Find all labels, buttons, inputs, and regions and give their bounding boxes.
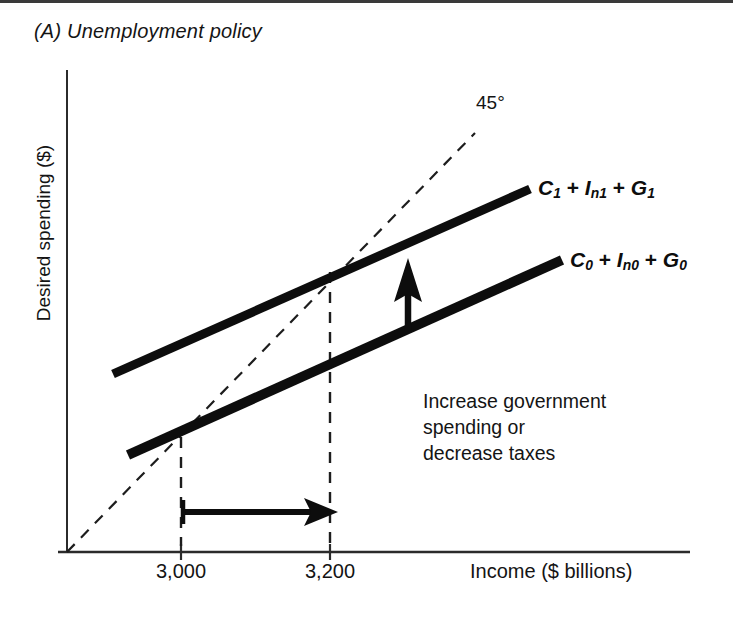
income-increase-arrow: [182, 498, 338, 526]
x-axis-tick-label-3000: 3,000: [131, 560, 231, 583]
shift-up-arrow: [394, 258, 422, 330]
series-label-c1-term: C1: [538, 176, 561, 199]
series-label-plus-0a: +: [599, 248, 611, 271]
economics-figure-panel-a: (A) Unemployment policy Desired spending…: [0, 0, 733, 621]
chart-plot-area: [0, 0, 733, 621]
forty-five-degree-line: [67, 133, 475, 552]
series-label-c0-in0-g0: C0 + In0 + G0: [570, 248, 687, 273]
series-line-c1-in1-g1: [113, 189, 530, 374]
series-label-g0-term: G0: [663, 248, 687, 271]
x-axis-tick-label-3200: 3,200: [280, 560, 380, 583]
forty-five-degree-label: 45°: [476, 92, 505, 114]
series-label-plus-0b: +: [645, 248, 657, 271]
series-label-g1-term: G1: [631, 176, 655, 199]
series-label-c1-in1-g1: C1 + In1 + G1: [538, 176, 655, 201]
series-label-plus-1a: +: [567, 176, 579, 199]
series-label-in0-term: In0: [617, 248, 639, 271]
series-label-in1-term: In1: [585, 176, 607, 199]
series-label-plus-1b: +: [613, 176, 625, 199]
series-label-c0-term: C0: [570, 248, 593, 271]
policy-annotation-text: Increase government spending or decrease…: [423, 388, 606, 466]
x-axis-label: Income ($ billions): [470, 560, 632, 583]
